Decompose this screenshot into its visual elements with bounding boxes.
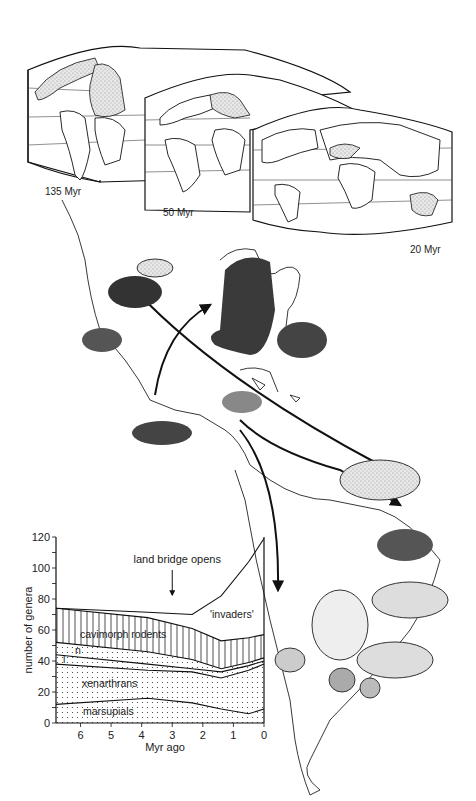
series-line-5 <box>56 539 264 615</box>
paleomap-20-myr <box>253 108 452 235</box>
x-tick-label: 2 <box>200 729 206 741</box>
y-tick-label: 20 <box>38 686 50 698</box>
x-tick-label: 3 <box>169 729 175 741</box>
ground-sloth-illustration <box>211 258 275 356</box>
land-bridge-annotation: land bridge opens <box>134 553 222 565</box>
map-label-50-myr: 50 Myr <box>163 207 194 218</box>
label-xenarthrans: xenarthrans <box>82 677 137 689</box>
x-tick-label: 0 <box>261 729 267 741</box>
label-n: n <box>75 644 81 656</box>
armadillo-illustration <box>82 328 122 352</box>
rabbit-illustration <box>360 678 380 698</box>
label-marsupials: marsupials <box>83 705 134 717</box>
y-tick-label: 100 <box>32 562 50 574</box>
x-tick-label: 5 <box>108 729 114 741</box>
y-tick-label: 40 <box>38 655 50 667</box>
anteater-illustration <box>132 421 192 445</box>
porcupine-illustration <box>108 276 162 308</box>
mastodon-illustration <box>312 590 368 660</box>
label-l: l <box>63 653 65 665</box>
map-label-135-myr: 135 Myr <box>45 186 81 197</box>
glyptodont-illustration <box>277 322 327 358</box>
horse-illustration <box>357 642 433 678</box>
sabretooth-illustration <box>372 582 448 618</box>
y-tick-label: 60 <box>38 624 50 636</box>
y-tick-label: 80 <box>38 593 50 605</box>
x-tick-label: 4 <box>139 729 145 741</box>
opossum-illustration <box>137 259 173 277</box>
x-axis-label: Myr ago <box>145 741 185 753</box>
capybara-illustration <box>222 391 262 413</box>
label-cavimorph-rodents: cavimorph rodents <box>80 628 166 640</box>
jaguar-illustration <box>340 460 420 500</box>
y-tick-label: 0 <box>44 717 50 729</box>
y-axis-label: number of genera <box>22 586 34 674</box>
x-tick-label: 1 <box>230 729 236 741</box>
y-tick-label: 120 <box>32 531 50 543</box>
wolf-illustration <box>329 668 355 692</box>
figure-canvas: 0204060801001206543210Myr agonumber of g… <box>0 0 476 801</box>
map-label-20-myr: 20 Myr <box>410 244 441 255</box>
x-tick-label: 6 <box>77 729 83 741</box>
deer-illustration <box>275 648 305 672</box>
squirrel-illustration <box>377 529 433 561</box>
genera-chart: 0204060801001206543210Myr agonumber of g… <box>22 531 267 753</box>
label-invaders: 'invaders' <box>210 608 254 620</box>
